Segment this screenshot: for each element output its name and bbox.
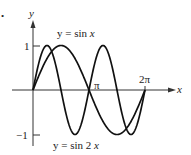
- x-axis-arrow-icon: [168, 88, 176, 93]
- y-axis-label: y: [29, 8, 34, 19]
- curve-label-sin-2x: y = sin 2 x: [53, 140, 99, 151]
- y-axis-arrow-icon: [31, 20, 36, 28]
- bullet: •: [1, 12, 4, 21]
- curve-label-sin-x: y = sin x: [57, 28, 95, 39]
- curve-label-sin-x-text: y = sin: [57, 27, 90, 39]
- x-tick-label-2pi: 2π: [139, 74, 150, 85]
- y-tick-label-1: 1: [24, 41, 30, 52]
- x-axis-label: x: [177, 84, 182, 95]
- chart: • y x 1 −1 π 2π y = sin x y = sin 2 x: [0, 0, 191, 155]
- x-tick-label-pi: π: [94, 80, 100, 91]
- curve-label-sin-2x-var: x: [94, 139, 99, 151]
- plot-area: [0, 0, 191, 155]
- y-tick-label-minus-1: −1: [16, 130, 28, 141]
- curve-label-sin-2x-text: y = sin 2: [53, 139, 94, 151]
- curve-label-sin-x-var: x: [90, 27, 95, 39]
